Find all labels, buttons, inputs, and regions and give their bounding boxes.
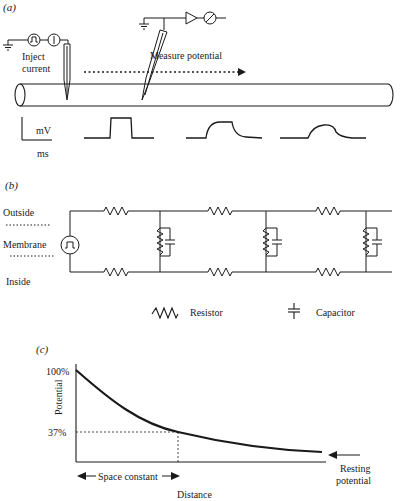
panel-c: (c) 100% 37% Potential Resting potential bbox=[36, 343, 371, 500]
outside-label: Outside bbox=[3, 207, 35, 218]
mv-label: mV bbox=[36, 125, 52, 136]
voltage-traces bbox=[84, 118, 366, 138]
voltmeter-icon bbox=[204, 12, 226, 24]
measure-label: Measure potential bbox=[150, 50, 222, 61]
inject-electrode-icon bbox=[64, 44, 70, 100]
measure-ground-icon bbox=[139, 18, 180, 29]
membrane-rc-2 bbox=[263, 211, 282, 272]
amplifier-icon bbox=[180, 12, 204, 24]
space-constant-guides bbox=[76, 432, 178, 462]
ms-label: ms bbox=[37, 148, 49, 159]
ground-icon bbox=[3, 40, 28, 50]
inject-label-1: Inject bbox=[22, 51, 45, 62]
panel-b-label: (b) bbox=[5, 179, 18, 192]
cable-circuit bbox=[61, 207, 392, 276]
y-axis-label: Potential bbox=[53, 379, 64, 415]
legend-resistor: Resistor bbox=[152, 307, 223, 318]
resting-label-2: potential bbox=[336, 475, 371, 486]
panel-c-label: (c) bbox=[36, 343, 49, 356]
resting-arrow-icon bbox=[328, 451, 360, 459]
resistor-label: Resistor bbox=[190, 307, 223, 318]
inside-label: Inside bbox=[6, 276, 31, 287]
tick-37: 37% bbox=[48, 427, 66, 438]
inject-label-2: current bbox=[22, 63, 51, 74]
membrane-label: Membrane bbox=[3, 239, 47, 250]
axon-cylinder bbox=[15, 84, 393, 106]
membrane-rc-3 bbox=[363, 211, 382, 272]
decay-curve bbox=[76, 370, 322, 452]
panel-b: (b) Outside Membrane Inside bbox=[3, 179, 392, 319]
resting-label-1: Resting bbox=[340, 463, 371, 474]
capacitor-label: Capacitor bbox=[316, 307, 356, 318]
x-axis-label: Distance bbox=[177, 489, 213, 500]
resistor-icon bbox=[152, 308, 178, 318]
legend-capacitor: Capacitor bbox=[288, 303, 356, 319]
tick-100: 100% bbox=[46, 366, 69, 377]
figure-canvas: (a) Inject current bbox=[0, 0, 401, 501]
chart-axes bbox=[76, 364, 326, 462]
capacitor-icon bbox=[288, 303, 300, 319]
propagation-arrow-icon bbox=[84, 68, 246, 76]
panel-a: (a) Inject current bbox=[3, 1, 393, 159]
panel-a-label: (a) bbox=[3, 1, 16, 14]
membrane-rc-1 bbox=[157, 211, 175, 272]
space-constant-label: Space constant bbox=[98, 471, 158, 482]
pulse-generator-icon bbox=[28, 34, 48, 46]
